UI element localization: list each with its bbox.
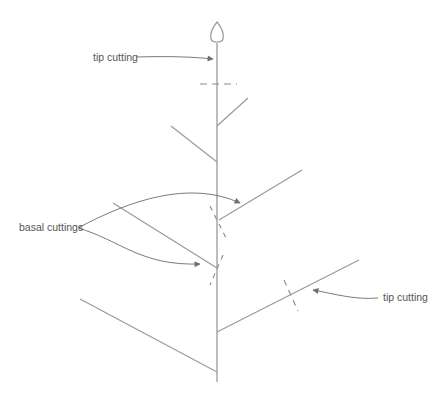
terminal-bud: [211, 22, 224, 42]
diagram-canvas: [0, 0, 446, 400]
basal-cut-line-upper: [210, 206, 226, 238]
arrow-basal-upper: [78, 193, 240, 228]
branch-left-1: [171, 126, 217, 162]
tip-cut-line-right: [284, 280, 298, 311]
label-tip-cutting-top: tip cutting: [93, 51, 138, 63]
arrow-tip-right: [313, 290, 378, 298]
label-basal-cuttings: basal cuttings: [19, 221, 83, 233]
branch-left-2: [113, 203, 217, 268]
branch-right-1: [217, 98, 248, 126]
arrow-tip-top: [137, 57, 213, 59]
branch-right-3: [217, 260, 359, 332]
branch-left-3: [80, 299, 217, 372]
label-tip-cutting-right: tip cutting: [383, 291, 428, 303]
branch-right-2: [219, 170, 302, 220]
